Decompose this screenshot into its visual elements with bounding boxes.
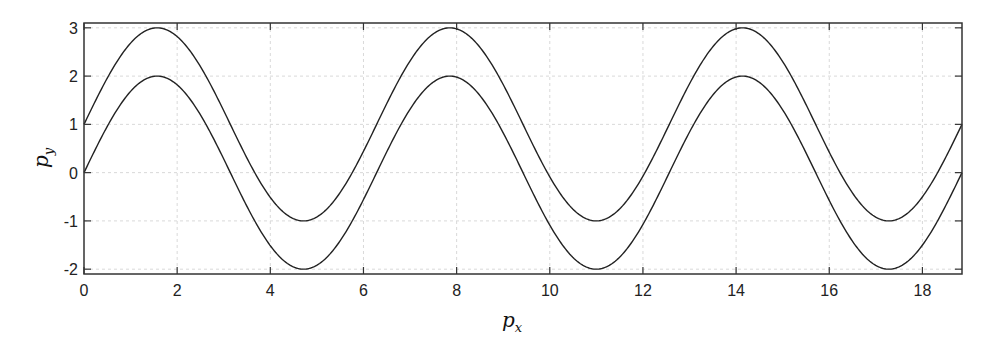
x-tick-label: 2 xyxy=(173,282,182,299)
x-tick-labels: 024681012141618 xyxy=(80,282,932,299)
x-tick-label: 18 xyxy=(914,282,932,299)
x-tick-label: 4 xyxy=(266,282,275,299)
y-tick-label: -2 xyxy=(64,261,78,278)
x-tick-label: 6 xyxy=(359,282,368,299)
x-axis-label: px xyxy=(502,308,523,335)
x-tick-label: 16 xyxy=(820,282,838,299)
y-tick-label: -1 xyxy=(64,213,78,230)
y-tick-label: 3 xyxy=(69,20,78,37)
line-chart: 024681012141618 -2-10123 px py xyxy=(0,0,993,344)
data-series xyxy=(84,28,962,269)
y-tick-label: 1 xyxy=(69,116,78,133)
x-tick-label: 0 xyxy=(80,282,89,299)
y-axis-label: py xyxy=(29,147,56,168)
x-tick-label: 12 xyxy=(634,282,652,299)
axis-ticks xyxy=(84,23,962,274)
y-tick-label: 2 xyxy=(69,68,78,85)
x-tick-label: 14 xyxy=(727,282,745,299)
plot-frame xyxy=(84,23,962,274)
grid-lines xyxy=(84,23,962,274)
y-tick-label: 0 xyxy=(69,165,78,182)
y-tick-labels: -2-10123 xyxy=(64,20,78,278)
x-tick-label: 8 xyxy=(452,282,461,299)
x-tick-label: 10 xyxy=(541,282,559,299)
